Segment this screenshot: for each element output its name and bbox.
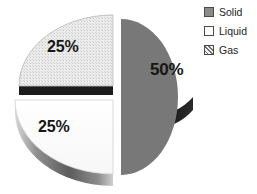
legend-swatch-solid-icon <box>204 7 214 17</box>
legend-swatch-liquid-icon <box>204 26 214 36</box>
pie-slice-solid <box>121 19 193 175</box>
pie-chart-figure: 50% 25% 25% Solid Liquid Gas <box>0 0 257 194</box>
legend-swatch-gas-icon <box>204 45 214 55</box>
pie-graphic: 50% 25% 25% <box>0 0 200 194</box>
pie-slice-solid-top <box>121 19 178 175</box>
pie-svg <box>0 0 200 194</box>
legend-item-gas[interactable]: Gas <box>204 44 257 56</box>
legend-item-liquid[interactable]: Liquid <box>204 25 257 37</box>
legend-label-solid: Solid <box>219 7 242 18</box>
chart-legend: Solid Liquid Gas <box>204 6 257 63</box>
legend-item-solid[interactable]: Solid <box>204 6 257 18</box>
pie-slice-liquid-top <box>15 100 113 174</box>
pie-slice-gas <box>19 15 113 95</box>
legend-label-liquid: Liquid <box>219 26 247 37</box>
pie-slice-liquid <box>15 100 113 186</box>
legend-label-gas: Gas <box>219 45 238 56</box>
pie-slice-gas-side <box>19 86 113 95</box>
pie-slice-gas-top <box>19 15 113 86</box>
